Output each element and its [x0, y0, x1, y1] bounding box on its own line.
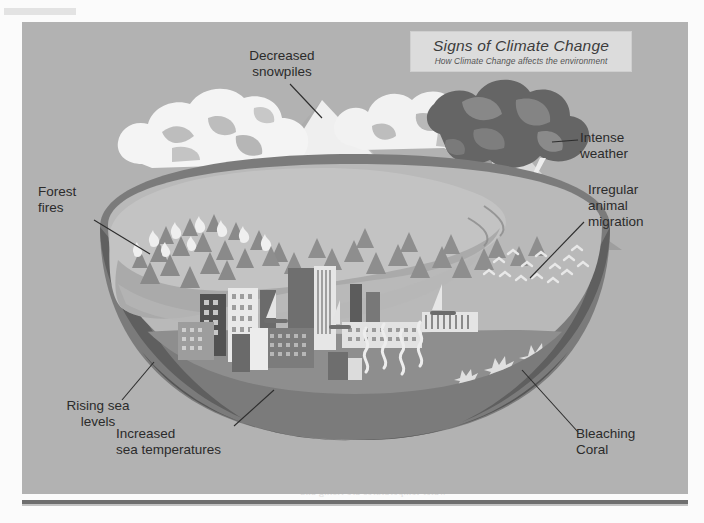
label-bleaching-coral: Bleaching Coral	[576, 426, 686, 458]
illustration-title: Signs of Climate Change	[411, 37, 631, 55]
page-footer-rule-shadow	[22, 504, 688, 506]
label-intense-weather: Intense weather	[580, 130, 680, 162]
label-decreased-snowpiles: Decreased snowpiles	[222, 48, 342, 80]
illustration-subtitle: How Climate Change affects the environme…	[411, 56, 631, 66]
title-plate: Signs of Climate Change How Climate Chan…	[410, 31, 632, 72]
illustration-panel: Signs of Climate Change How Climate Chan…	[22, 22, 688, 494]
label-increased-sea-temperatures: Increased sea temperatures	[116, 426, 306, 458]
scan-edge-artifact	[4, 8, 76, 15]
label-irregular-animal-migration: Irregular animal migration	[588, 182, 688, 230]
label-forest-fires: Forest fires	[38, 184, 128, 216]
scanned-page: of released into the water and are some …	[0, 0, 704, 523]
